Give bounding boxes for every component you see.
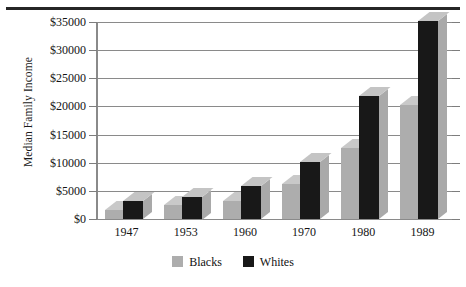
y-tick-right	[452, 135, 460, 136]
bar-1989-blacks	[400, 105, 420, 219]
bar-face	[341, 148, 361, 219]
legend-item-whites: Whites	[243, 255, 294, 270]
bar-1953-whites	[182, 197, 202, 220]
y-tick-right	[452, 219, 460, 220]
y-tick-left	[89, 219, 97, 220]
y-tick-label: $0	[74, 212, 86, 227]
x-tick-label: 1960	[215, 225, 274, 240]
bar-side	[438, 14, 447, 219]
y-tick-right	[452, 163, 460, 164]
y-tick-label: $25000	[50, 71, 86, 86]
bar-face	[418, 21, 438, 219]
bar-side	[379, 89, 388, 219]
bar-side	[320, 155, 329, 219]
y-tick-label: $15000	[50, 127, 86, 142]
bar-face	[282, 184, 302, 219]
y-tick-right	[452, 50, 460, 51]
gridline	[97, 163, 452, 164]
y-tick-label: $20000	[50, 99, 86, 114]
y-tick-left	[89, 191, 97, 192]
x-tick-label: 1953	[156, 225, 215, 240]
y-tick-label: $30000	[50, 43, 86, 58]
legend-label-whites: Whites	[260, 255, 294, 269]
y-tick-right	[452, 106, 460, 107]
y-tick-right	[452, 78, 460, 79]
y-tick-right	[452, 22, 460, 23]
top-rule-divider	[6, 7, 460, 10]
bar-1980-whites	[359, 96, 379, 219]
y-tick-left	[89, 106, 97, 107]
y-tick-label: $5000	[56, 183, 86, 198]
bar-face	[105, 210, 125, 219]
bar-1960-whites	[241, 186, 261, 219]
bar-1953-blacks	[164, 205, 184, 219]
y-tick-left	[89, 135, 97, 136]
bar-face	[123, 201, 143, 219]
y-axis-title: Median Family Income	[22, 32, 34, 192]
y-tick-left	[89, 50, 97, 51]
gridline	[97, 219, 452, 220]
x-tick-label: 1947	[97, 225, 156, 240]
bar-1947-whites	[123, 201, 143, 219]
y-tick-label: $35000	[50, 15, 86, 30]
x-tick-label: 1970	[275, 225, 334, 240]
y-tick-left	[89, 22, 97, 23]
chart-figure: Median Family Income $0$5000$10000$15000…	[0, 0, 466, 287]
bar-1970-whites	[300, 162, 320, 219]
bar-side	[261, 179, 270, 219]
bar-face	[241, 186, 261, 219]
gridline	[97, 22, 452, 23]
legend-label-blacks: Blacks	[189, 255, 222, 269]
y-axis-line	[96, 22, 98, 219]
x-tick-label: 1980	[334, 225, 393, 240]
bar-face	[223, 201, 243, 219]
bar-1947-blacks	[105, 210, 125, 219]
bar-face	[164, 205, 184, 219]
bar-1970-blacks	[282, 184, 302, 219]
bar-face	[182, 197, 202, 220]
plot-area: $0$5000$10000$15000$20000$25000$30000$35…	[97, 22, 452, 219]
gridline	[97, 50, 452, 51]
bar-1989-whites	[418, 21, 438, 219]
bar-face	[300, 162, 320, 219]
legend-item-blacks: Blacks	[172, 255, 222, 270]
bar-1980-blacks	[341, 148, 361, 219]
x-tick-label: 1989	[393, 225, 452, 240]
bar-1960-blacks	[223, 201, 243, 219]
chart-legend: Blacks Whites	[0, 255, 466, 270]
gray-swatch-icon	[172, 256, 183, 267]
gridline	[97, 78, 452, 79]
bar-face	[359, 96, 379, 219]
y-tick-left	[89, 78, 97, 79]
y-tick-left	[89, 163, 97, 164]
y-tick-right	[452, 191, 460, 192]
bar-face	[400, 105, 420, 219]
y-tick-label: $10000	[50, 155, 86, 170]
gridline	[97, 106, 452, 107]
black-swatch-icon	[243, 256, 254, 267]
gridline	[97, 135, 452, 136]
